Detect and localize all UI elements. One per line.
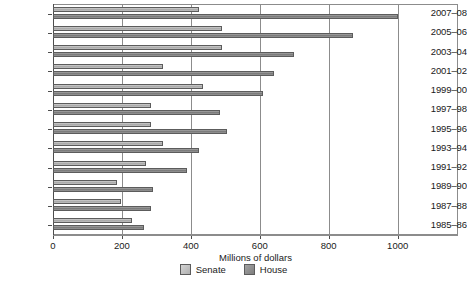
bar-group xyxy=(0,43,458,62)
bar-house xyxy=(53,71,274,76)
bar-senate xyxy=(53,103,151,108)
chart-legend: SenateHouse xyxy=(0,264,467,275)
legend-label: House xyxy=(260,264,287,275)
bar-house xyxy=(53,110,220,115)
bar-house xyxy=(53,14,398,19)
bar-house xyxy=(53,91,263,96)
bar-senate xyxy=(53,122,151,127)
bar-house xyxy=(53,33,353,38)
bar-chart: 2007–082005–062003–042001–021999–001997–… xyxy=(0,0,467,283)
bar-senate xyxy=(53,180,117,185)
bar-senate xyxy=(53,64,163,69)
bar-group xyxy=(0,23,458,42)
legend-swatch-senate xyxy=(180,264,191,275)
x-tick-mark xyxy=(398,236,399,239)
x-tick-label: 600 xyxy=(240,240,280,251)
x-tick-label: 400 xyxy=(171,240,211,251)
bar-senate xyxy=(53,7,199,12)
bar-group xyxy=(0,197,458,216)
bar-group xyxy=(0,100,458,119)
x-tick-label: 200 xyxy=(102,240,142,251)
bar-senate xyxy=(53,84,203,89)
bar-group xyxy=(0,158,458,177)
bar-group xyxy=(0,177,458,196)
x-tick-mark xyxy=(122,236,123,239)
bar-senate xyxy=(53,26,222,31)
bar-house xyxy=(53,168,187,173)
bar-senate xyxy=(53,218,132,223)
x-tick-mark xyxy=(53,236,54,239)
x-tick-mark xyxy=(260,236,261,239)
legend-item-senate[interactable]: Senate xyxy=(180,264,226,275)
legend-item-house[interactable]: House xyxy=(244,264,287,275)
bar-house xyxy=(53,129,227,134)
bar-senate xyxy=(53,161,146,166)
bar-group xyxy=(0,4,458,23)
bar-house xyxy=(53,52,294,57)
bar-house xyxy=(53,206,151,211)
bar-group xyxy=(0,216,458,235)
bar-group xyxy=(0,139,458,158)
bar-senate xyxy=(53,199,121,204)
bar-senate xyxy=(53,141,163,146)
x-tick-label: 0 xyxy=(33,240,73,251)
bar-house xyxy=(53,225,144,230)
x-axis-label: Millions of dollars xyxy=(53,252,458,263)
bar-group xyxy=(0,120,458,139)
legend-label: Senate xyxy=(196,264,226,275)
bar-house xyxy=(53,187,153,192)
x-tick-mark xyxy=(329,236,330,239)
legend-swatch-house xyxy=(244,264,255,275)
x-tick-label: 800 xyxy=(309,240,349,251)
bar-group xyxy=(0,81,458,100)
bar-house xyxy=(53,148,199,153)
bar-group xyxy=(0,62,458,81)
x-tick-label: 1000 xyxy=(378,240,418,251)
x-tick-mark xyxy=(191,236,192,239)
bar-senate xyxy=(53,45,222,50)
